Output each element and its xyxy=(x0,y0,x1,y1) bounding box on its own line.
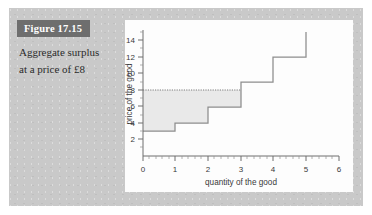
x-axis-major-ticks xyxy=(143,156,339,161)
figure-label: Figure 17.15 xyxy=(17,20,90,37)
x-tick-label: 3 xyxy=(239,165,244,174)
x-tick-label: 0 xyxy=(141,165,146,174)
chart-card: 2 4 6 8 10 12 14 0 1 2 3 4 xyxy=(125,20,353,192)
x-tick-label: 6 xyxy=(337,165,342,174)
figure-caption: Aggregate surplus at a price of £8 xyxy=(17,44,105,79)
x-tick-label: 5 xyxy=(304,165,309,174)
x-tick-label: 4 xyxy=(271,165,276,174)
caption-block: Figure 17.15 Aggregate surplus at a pric… xyxy=(17,18,121,79)
chart-plot-area: 2 4 6 8 10 12 14 0 1 2 3 4 xyxy=(125,20,353,192)
y-axis-major-ticks xyxy=(138,40,143,139)
surplus-shaded-region xyxy=(143,90,241,131)
x-tick-label: 1 xyxy=(173,165,178,174)
figure-root: Figure 17.15 Aggregate surplus at a pric… xyxy=(0,0,372,215)
x-axis-tick-labels: 0 1 2 3 4 5 6 xyxy=(141,165,342,174)
y-tick-label: 14 xyxy=(126,36,135,45)
step-chart-svg: 2 4 6 8 10 12 14 0 1 2 3 4 xyxy=(125,20,353,192)
y-tick-label: 2 xyxy=(131,135,136,144)
figure-panel: Figure 17.15 Aggregate surplus at a pric… xyxy=(9,8,363,206)
y-axis-title: price of the good xyxy=(125,63,134,124)
x-tick-label: 2 xyxy=(206,165,211,174)
x-axis-title: quantity of the good xyxy=(205,178,277,187)
y-tick-label: 12 xyxy=(126,53,135,62)
